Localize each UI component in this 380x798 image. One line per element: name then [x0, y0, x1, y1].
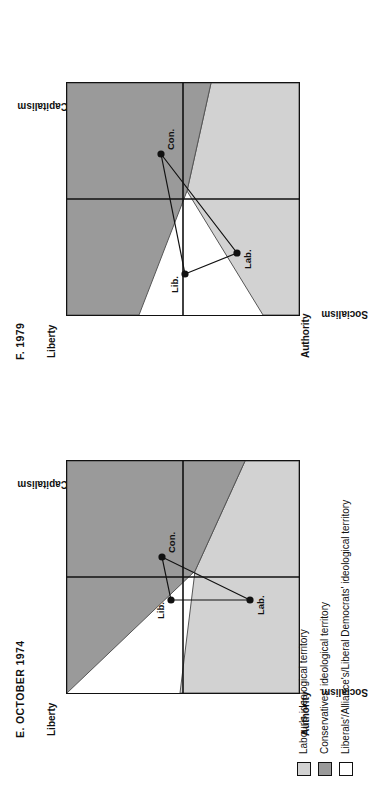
figure-plate: E. OCTOBER 1974 Liberty Authority Social…	[0, 0, 380, 798]
point-lib-f	[181, 270, 188, 277]
point-label-con-f: Con.	[165, 129, 176, 150]
axis-label-capitalism-e: Capitalism	[17, 479, 68, 490]
axis-label-authority-f: Authority	[300, 314, 311, 358]
plot-svg-f	[67, 83, 299, 315]
legend-label-liberal: Liberals'/Alliance's/Liberal Democrats' …	[340, 500, 351, 754]
legend-swatch-conservative	[318, 762, 332, 776]
plot-svg-e	[67, 461, 299, 693]
point-label-con-e: Con.	[166, 532, 177, 553]
point-label-lab-e: Lab.	[255, 595, 266, 615]
axis-label-liberty-e: Liberty	[46, 703, 57, 736]
axis-label-capitalism-f: Capitalism	[17, 101, 68, 112]
legend-swatch-labour	[297, 762, 311, 776]
legend-swatch-liberal	[339, 762, 353, 776]
point-label-lib-e: Lib.	[155, 602, 166, 619]
panel-title-f: F. 1979	[14, 323, 26, 360]
point-con-f	[157, 150, 164, 157]
panel-1979: F. 1979 Liberty Authority Socialism Capi…	[0, 50, 380, 360]
axis-label-socialism-f: Socialism	[321, 309, 368, 320]
point-lab-f	[233, 249, 240, 256]
plot-area-e: Lab. Lib. Con.	[66, 460, 300, 694]
axis-label-liberty-f: Liberty	[46, 325, 57, 358]
point-label-lib-f: Lib.	[169, 276, 180, 293]
point-lib-e	[167, 596, 174, 603]
point-label-lab-f: Lab.	[242, 249, 253, 269]
plot-area-f: Lab. Lib. Con.	[66, 82, 300, 316]
legend-label-labour: Labour's ideological territory	[298, 629, 309, 754]
point-lab-e	[246, 596, 253, 603]
point-con-e	[158, 553, 165, 560]
panel-title-e: E. OCTOBER 1974	[14, 641, 26, 738]
legend-label-conservative: Conservatives' ideological territory	[319, 602, 330, 754]
